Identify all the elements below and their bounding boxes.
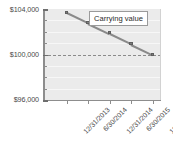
carrying-value-line-chart: $104,000 $100,000 $96,000 Carrying value… bbox=[0, 0, 173, 145]
x-axis-labels: 12/31/2013 6/30/2014 12/31/2014 6/30/201… bbox=[0, 0, 173, 145]
